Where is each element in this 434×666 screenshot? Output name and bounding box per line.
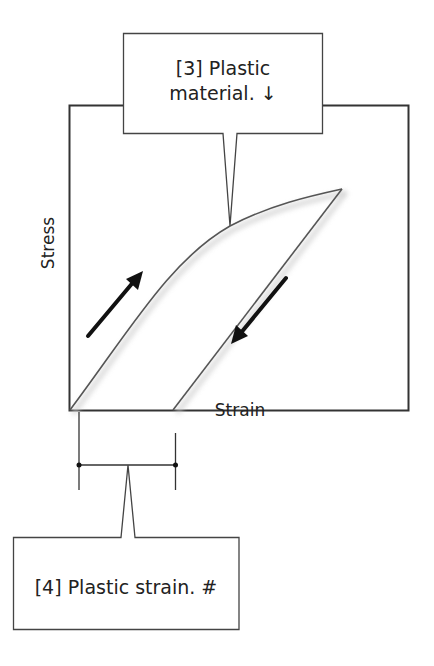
y-axis-label: Stress <box>38 213 58 273</box>
x-axis-label: Strain <box>210 400 270 420</box>
callout-3-text: [3] Plastic material. ↓ <box>123 56 323 106</box>
unloading-arrow-icon <box>231 278 286 344</box>
unloading-line <box>173 189 342 410</box>
callout-3-line1: [3] Plastic <box>123 56 323 81</box>
callout-3-line2: material. ↓ <box>123 81 323 106</box>
callout-4-line1: [4] Plastic strain. # <box>13 575 239 600</box>
plot-frame <box>70 106 409 411</box>
callout-4-text: [4] Plastic strain. # <box>13 575 239 600</box>
callout-4-box <box>14 465 240 630</box>
